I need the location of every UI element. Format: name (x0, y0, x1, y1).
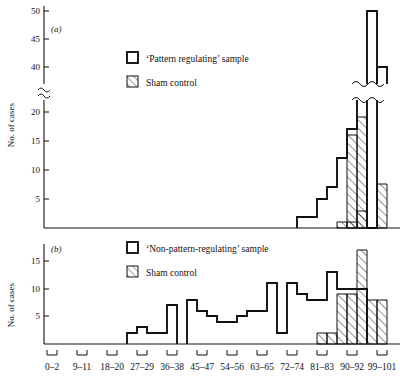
xtick-label-1: 9–11 (73, 362, 92, 372)
panel-b-ytick-15: 15 (31, 256, 41, 266)
panel-b-legend-label-sample: ‘Non-pattern-regulating’ sample (146, 244, 268, 254)
panel-a-bar-break-upper (352, 82, 384, 87)
xtick-label-5: 45–47 (190, 362, 214, 372)
panel-a: No. of cases (a) 50 45 40 (6, 6, 400, 228)
xtick-label-11: 99–101 (368, 362, 397, 372)
figure-svg: No. of cases (a) 50 45 40 (0, 0, 408, 380)
xtick-label-8: 72–74 (280, 362, 304, 372)
panel-b-tag: (b) (51, 244, 62, 254)
panel-a-y-axis-label: No. of cases (6, 102, 16, 147)
panel-a-legend: ‘Pattern regulating’ sample Sham control (127, 52, 249, 88)
panel-b-y-ticks: 15 10 5 (31, 256, 49, 321)
panel-a-y-ticks-lower: 20 15 10 5 (31, 107, 49, 204)
panel-b: No. of cases (b) 15 10 5 ‘Non-pattern-re… (6, 242, 400, 344)
panel-b-y-axis-label: No. of cases (6, 282, 16, 327)
panel-a-axis-break-upper (38, 88, 50, 92)
panel-a-axis-break-lower (38, 94, 50, 98)
panel-b-legend-label-control: Sham control (146, 268, 197, 278)
panel-b-legend: ‘Non-pattern-regulating’ sample Sham con… (127, 242, 268, 278)
xtick-label-0: 0–2 (45, 362, 60, 372)
xtick-label-10: 90–92 (340, 362, 364, 372)
x-axis-ticks (47, 350, 387, 355)
panel-a-ytick-40: 40 (31, 62, 41, 72)
panel-b-legend-swatch-hatched (127, 266, 138, 277)
panel-a-ytick-10: 10 (31, 165, 41, 175)
panel-a-legend-swatch-open (127, 52, 138, 63)
panel-a-upper-bars (367, 11, 387, 84)
panel-a-legend-label-sample: ‘Pattern regulating’ sample (146, 54, 249, 64)
panel-a-tag: (a) (51, 24, 62, 34)
panel-a-series-sham-control (337, 117, 387, 228)
panel-a-legend-swatch-hatched (127, 76, 138, 87)
xtick-label-7: 63–65 (250, 362, 274, 372)
panel-a-legend-label-control: Sham control (146, 78, 197, 88)
xtick-label-3: 27–29 (130, 362, 154, 372)
panel-a-ytick-50: 50 (31, 6, 41, 16)
xtick-label-9: 81–83 (310, 362, 334, 372)
panel-b-ytick-10: 10 (31, 284, 41, 294)
panel-a-y-ticks-upper: 50 45 40 (31, 6, 49, 72)
xtick-label-6: 54–56 (220, 362, 244, 372)
panel-a-ytick-15: 15 (31, 136, 41, 146)
histogram-figure: No. of cases (a) 50 45 40 (0, 0, 408, 380)
panel-a-ytick-5: 5 (36, 194, 41, 204)
panel-b-legend-swatch-open (127, 242, 138, 253)
x-axis-labels: 0–2 9–11 18–20 27–29 36–38 45–47 54–56 6… (45, 362, 397, 372)
panel-a-ytick-20: 20 (31, 107, 41, 117)
panel-a-ytick-45: 45 (31, 34, 41, 44)
panel-b-ytick-5: 5 (36, 311, 41, 321)
xtick-label-2: 18–20 (100, 362, 124, 372)
xtick-label-4: 36–38 (160, 362, 184, 372)
